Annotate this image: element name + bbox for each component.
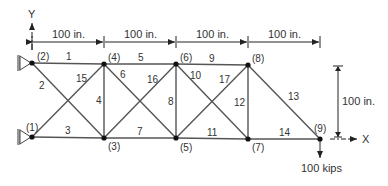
member-label-12: 12 [234, 97, 246, 108]
dimension-label-4: 100 in. [268, 28, 301, 40]
node-6 [173, 61, 178, 66]
node-label-9: (9) [314, 123, 326, 134]
member-1 [32, 63, 104, 64]
node-label-5: (5) [180, 142, 192, 153]
node-4 [101, 61, 106, 66]
member-label-15: 15 [76, 73, 88, 84]
node-label-7: (7) [252, 142, 264, 153]
member-label-4: 4 [96, 95, 102, 106]
member-label-5: 5 [138, 52, 144, 63]
truss-diagram: Y X 100 in. 100 in. 100 in. 100 in. 100 … [0, 0, 388, 186]
member-label-14: 14 [279, 127, 291, 138]
member-3 [32, 137, 104, 138]
member-label-8: 8 [168, 96, 174, 107]
node-7 [245, 136, 250, 141]
node-label-6: (6) [180, 52, 192, 63]
member-label-17: 17 [219, 74, 231, 85]
node-2 [29, 60, 34, 65]
member-label-3: 3 [65, 125, 71, 136]
member-label-6: 6 [120, 69, 126, 80]
node-9 [317, 136, 322, 141]
node-label-2: (2) [37, 51, 49, 62]
pin-support-node-2 [17, 55, 31, 71]
vertical-dimension-label: 100 in. [342, 95, 375, 107]
dimension-label-2: 100 in. [124, 28, 157, 40]
x-axis: X [330, 133, 370, 145]
node-8 [245, 62, 250, 67]
member-9 [176, 64, 248, 65]
node-3 [101, 135, 106, 140]
member-label-9: 9 [209, 53, 215, 64]
dimension-label-1: 100 in. [52, 28, 85, 40]
node-label-3: (3) [108, 141, 120, 152]
node-label-8: (8) [252, 53, 264, 64]
member-11 [176, 138, 248, 139]
x-axis-label: X [362, 133, 370, 145]
node-label-1: (1) [26, 122, 38, 133]
load-label: 100 kips [301, 162, 342, 174]
member-label-2: 2 [39, 80, 45, 91]
dimension-label-3: 100 in. [196, 28, 229, 40]
member-label-11: 11 [207, 127, 218, 138]
node-label-4: (4) [108, 52, 120, 63]
y-axis-label: Y [28, 8, 36, 20]
node-1 [29, 134, 34, 139]
member-label-10: 10 [190, 70, 202, 81]
member-label-16: 16 [147, 74, 159, 85]
member-label-13: 13 [288, 91, 300, 102]
node-5 [173, 135, 178, 140]
member-label-7: 7 [137, 126, 143, 137]
member-label-1: 1 [66, 51, 72, 62]
